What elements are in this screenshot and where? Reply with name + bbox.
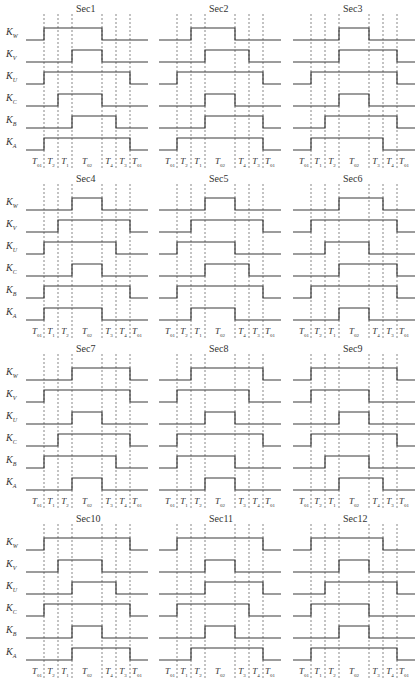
signal-label-kc: KC	[6, 602, 17, 615]
signal-label-kb: KB	[6, 284, 16, 297]
waveform-canvas	[133, 516, 287, 685]
interval-label: T02	[344, 156, 364, 168]
signal-label-kb: KB	[6, 454, 16, 467]
waveform-canvas	[133, 346, 287, 516]
signal-label-ku: KU	[6, 580, 17, 593]
interval-label: T02	[77, 496, 97, 508]
signal-label-kc: KC	[6, 262, 17, 275]
waveform-canvas	[267, 176, 419, 346]
waveform-canvas	[133, 6, 287, 176]
interval-label: T1	[322, 496, 342, 508]
interval-label: T1	[322, 326, 342, 338]
signal-label-kc: KC	[6, 92, 17, 105]
waveform-ku	[293, 72, 415, 84]
interval-label: T2	[188, 666, 208, 678]
waveform-kc	[159, 434, 281, 446]
signal-label-kb: KB	[6, 114, 16, 127]
interval-label: T01	[394, 496, 414, 508]
signal-label-kc: KC	[6, 432, 17, 445]
interval-label: T2	[55, 326, 75, 338]
waveform-canvas	[267, 346, 419, 516]
interval-label: T02	[344, 496, 364, 508]
interval-label: T1	[55, 666, 75, 678]
interval-label: T02	[77, 326, 97, 338]
waveform-ku	[159, 72, 281, 84]
waveform-ku	[26, 72, 148, 84]
signal-label-kb: KB	[6, 624, 16, 637]
waveform-kb	[159, 286, 281, 298]
interval-label: T01	[394, 156, 414, 168]
waveform-canvas	[133, 176, 287, 346]
waveform-kb	[293, 286, 415, 298]
waveform-kc	[26, 604, 148, 616]
signal-label-kw: KW	[6, 536, 18, 549]
signal-label-ka: KA	[6, 476, 16, 489]
signal-label-kv: KV	[6, 558, 16, 571]
interval-label: T2	[322, 666, 342, 678]
waveform-kc	[293, 434, 415, 446]
interval-label: T2	[55, 496, 75, 508]
interval-label: T1	[188, 326, 208, 338]
signal-label-kw: KW	[6, 26, 18, 39]
interval-label: T02	[77, 156, 97, 168]
interval-label: T01	[394, 326, 414, 338]
waveform-kw	[26, 538, 148, 550]
signal-label-kw: KW	[6, 366, 18, 379]
signal-label-kv: KV	[6, 218, 16, 231]
waveform-ka	[293, 648, 415, 660]
signal-label-kv: KV	[6, 48, 16, 61]
signal-label-ku: KU	[6, 70, 17, 83]
interval-label: T1	[55, 156, 75, 168]
signal-label-ku: KU	[6, 410, 17, 423]
waveform-canvas	[267, 6, 419, 176]
interval-label: T02	[210, 156, 230, 168]
interval-label: T2	[188, 496, 208, 508]
interval-label: T02	[344, 326, 364, 338]
signal-label-kw: KW	[6, 196, 18, 209]
waveform-canvas	[267, 516, 419, 685]
interval-label: T02	[210, 666, 230, 678]
signal-label-ka: KA	[6, 306, 16, 319]
waveform-ka	[26, 138, 148, 150]
waveform-kw	[159, 538, 281, 550]
waveform-kv	[26, 390, 148, 402]
signal-label-kv: KV	[6, 388, 16, 401]
waveform-ka	[159, 138, 281, 150]
interval-label: T02	[210, 326, 230, 338]
interval-label: T1	[188, 156, 208, 168]
waveform-kv	[293, 220, 415, 232]
interval-label: T02	[77, 666, 97, 678]
signal-label-ka: KA	[6, 136, 16, 149]
interval-label: T02	[344, 666, 364, 678]
waveform-kw	[293, 368, 415, 380]
waveform-kb	[26, 286, 148, 298]
signal-label-ka: KA	[6, 646, 16, 659]
interval-label: T01	[394, 666, 414, 678]
signal-label-ku: KU	[6, 240, 17, 253]
interval-label: T02	[210, 496, 230, 508]
interval-label: T2	[322, 156, 342, 168]
